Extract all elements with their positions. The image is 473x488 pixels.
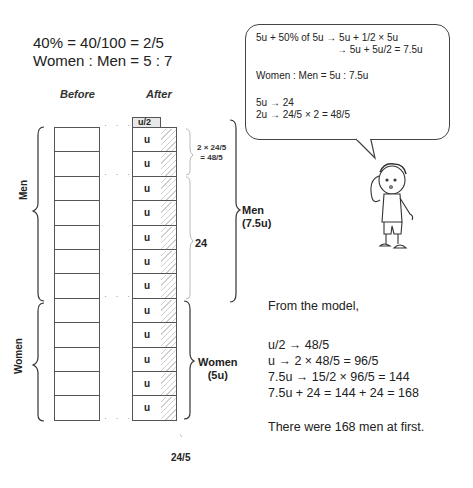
- dotted-connector: · · ·: [104, 120, 133, 130]
- dotted-connector: · · ·: [104, 169, 133, 179]
- solution-step-1: u/2 → 48/5: [268, 338, 329, 353]
- solution-answer: There were 168 men at first.: [268, 420, 424, 435]
- unit-label: u: [144, 158, 150, 169]
- unit-label: u: [144, 354, 150, 365]
- hatched-half-unit: [161, 227, 176, 249]
- after-unit-box: u: [132, 249, 177, 274]
- unit-label: u: [144, 329, 150, 340]
- men-total-line2: (7.5u): [242, 217, 271, 230]
- before-unit-box: [54, 347, 100, 372]
- women-total-line2: (5u): [198, 369, 238, 382]
- unit-label: u: [144, 305, 150, 316]
- after-unit-box: u: [132, 371, 177, 396]
- after-unit-box: u: [132, 200, 177, 225]
- before-unit-box: [54, 322, 100, 347]
- hatched-half-unit: [161, 153, 176, 175]
- women-left-label: Women: [13, 338, 24, 374]
- after-unit-box: u: [132, 151, 177, 176]
- annotation-line: = 48/5: [197, 153, 226, 163]
- solution-intro: From the model,: [268, 299, 359, 314]
- bubble-line-4: 5u → 24: [256, 97, 294, 109]
- hatched-half-unit: [161, 251, 176, 273]
- men-brace-icon: [33, 127, 44, 301]
- solution-step-2: u → 2 × 48/5 = 96/5: [268, 354, 379, 369]
- left-braces: [30, 125, 52, 425]
- unit-label: u: [144, 134, 150, 145]
- after-unit-box: u: [132, 127, 177, 152]
- bottom-part-annotation: 24/5: [171, 452, 190, 463]
- hatched-half-unit: [161, 349, 176, 371]
- unit-label: u: [144, 207, 150, 218]
- men-total-label: Men (7.5u): [242, 204, 271, 230]
- before-unit-box: [54, 176, 100, 201]
- top-two-units-annotation: 2 × 24/5 = 48/5: [197, 143, 226, 163]
- dotted-connector: · · ·: [104, 413, 133, 423]
- speech-bubble: 5u + 50% of 5u → 5u + 1/2 × 5u → 5u + 5u…: [245, 24, 450, 140]
- before-unit-box: [54, 371, 100, 396]
- men-left-label: Men: [18, 180, 29, 200]
- dotted-connector: · · ·: [104, 291, 133, 301]
- half-unit-label: u/2: [138, 117, 151, 127]
- unit-label: u: [144, 378, 150, 389]
- before-unit-box: [54, 395, 100, 420]
- thinking-boy-icon: [362, 160, 432, 260]
- hatched-half-unit: [161, 275, 176, 297]
- unit-label: u: [144, 256, 150, 267]
- solution-step-3: 7.5u → 15/2 × 96/5 = 144: [268, 370, 410, 385]
- hatched-half-unit: [161, 324, 176, 346]
- before-unit-box: [54, 151, 100, 176]
- hatched-half-unit: [161, 178, 176, 200]
- after-unit-box: u: [132, 225, 177, 250]
- bubble-line-5: 2u → 24/5 × 2 = 48/5: [256, 109, 350, 121]
- after-unit-box: u: [132, 273, 177, 298]
- before-unit-box: [54, 200, 100, 225]
- before-unit-box: [54, 298, 100, 323]
- after-unit-box: u: [132, 322, 177, 347]
- after-unit-box: u: [132, 298, 177, 323]
- after-unit-box: u: [132, 347, 177, 372]
- hatched-half-unit: [161, 397, 176, 419]
- solution-step-4: 7.5u + 24 = 144 + 24 = 168: [268, 386, 419, 401]
- before-unit-box: [54, 225, 100, 250]
- before-unit-box: [54, 127, 100, 152]
- men-total-line1: Men: [242, 204, 271, 217]
- after-unit-box: u: [132, 395, 177, 420]
- unit-label: u: [144, 280, 150, 291]
- before-unit-box: [54, 249, 100, 274]
- unit-label: u: [144, 402, 150, 413]
- hatched-half-unit: [161, 300, 176, 322]
- before-unit-box: [54, 273, 100, 298]
- hatched-half-unit: [161, 202, 176, 224]
- remaining-men-annotation: 24: [195, 237, 207, 249]
- bubble-line-2: → 5u + 5u/2 = 7.5u: [337, 44, 423, 56]
- hatched-half-unit: [161, 129, 176, 151]
- unit-label: u: [144, 232, 150, 243]
- women-total-label: Women (5u): [198, 356, 238, 382]
- women-brace-icon: [33, 303, 44, 421]
- after-unit-box: u: [132, 176, 177, 201]
- unit-label: u: [144, 183, 150, 194]
- bubble-line-1: 5u + 50% of 5u → 5u + 1/2 × 5u: [256, 32, 398, 44]
- hatched-half-unit: [161, 373, 176, 395]
- bubble-line-3: Women : Men = 5u : 7.5u: [256, 70, 368, 82]
- annotation-line: 2 × 24/5: [197, 143, 226, 153]
- women-total-line1: Women: [198, 356, 238, 369]
